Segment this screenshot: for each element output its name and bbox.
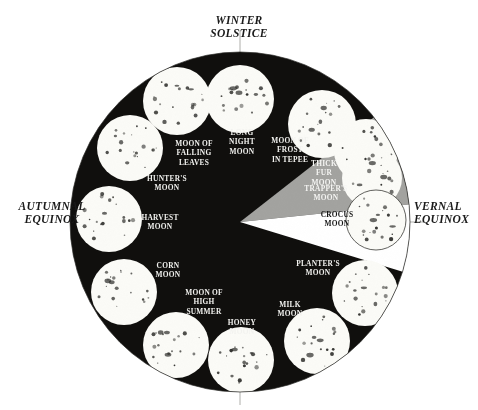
moon-label-moon-of-frost-in-tepee: MOON OF FROST IN TEPEE (271, 136, 309, 164)
moon-label-harvest-moon: HARVEST MOON (141, 213, 178, 232)
moon-label-corn-moon: CORN MOON (156, 261, 181, 280)
moon-label-hunter-s-moon: HUNTER'S MOON (147, 174, 187, 193)
moon-label-milk-moon: MILK MOON (278, 300, 303, 319)
moon-label-planter-s-moon: PLANTER'S MOON (296, 259, 340, 278)
disc-grain-overlay (70, 52, 410, 392)
moon-label-honey-moon: HONEY MOON (228, 318, 256, 337)
moon-label-moon-of-falling-leaves: MOON OF FALLING LEAVES (175, 139, 213, 167)
axis-label-winter-solstice: WINTER SOLSTICE (0, 14, 478, 40)
axis-label-vernal-equinox: VERNAL EQUINOX (414, 200, 476, 226)
moon-calendar-figure: WINTER SOLSTICE AUTUMNAL EQUINOX VERNAL … (0, 0, 478, 410)
axis-label-autumnal-equinox: AUTUMNAL EQUINOX (4, 200, 100, 226)
moon-label-moon-of-high-summer: MOON OF HIGH SUMMER (185, 288, 223, 316)
moon-label-crocus-moon: CROCUS MOON (321, 210, 354, 229)
moon-label-trapper-s-moon: TRAPPER'S MOON (304, 184, 347, 203)
moon-label-long-night-moon: LONG NIGHT MOON (229, 128, 255, 156)
